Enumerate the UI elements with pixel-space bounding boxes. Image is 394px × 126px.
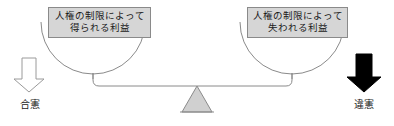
benefit-box-gain: 人権の制限によって 得られる利益 <box>48 7 151 38</box>
fulcrum-triangle <box>182 86 212 112</box>
down-arrow-outline-icon <box>14 58 44 92</box>
benefit-box-loss-line1: 人権の制限によって <box>253 11 343 22</box>
benefit-box-gain-line1: 人権の制限によって <box>55 11 145 22</box>
benefit-box-loss: 人権の制限によって 失われる利益 <box>247 7 348 38</box>
down-arrow-solid-icon <box>347 54 381 92</box>
verdict-label-unconstitutional: 違憲 <box>340 96 388 111</box>
verdict-label-constitutional: 合憲 <box>6 96 54 111</box>
diagram-canvas: 人権の制限によって 得られる利益 人権の制限によって 失われる利益 合憲 違憲 <box>0 0 394 126</box>
balance-beam <box>93 73 292 86</box>
benefit-box-gain-line2: 得られる利益 <box>70 23 130 34</box>
benefit-box-loss-line2: 失われる利益 <box>268 23 328 34</box>
